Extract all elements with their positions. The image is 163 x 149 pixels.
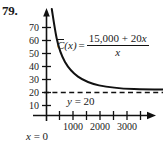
- y-tick-label-20: 20: [19, 88, 39, 98]
- asymptote-label-value: 20: [84, 95, 95, 107]
- horizontal-asymptote-label: y = 20: [67, 96, 95, 107]
- formula-numerator-var: x: [142, 32, 147, 44]
- y-tick-label-10: 10: [19, 101, 39, 111]
- origin-label-var: x: [26, 130, 31, 142]
- formula-equals: =: [79, 40, 85, 51]
- asymptote-label-equals: =: [75, 95, 81, 107]
- y-tick-label-40: 40: [19, 62, 39, 72]
- x-tick-label-3000: 3000: [113, 122, 141, 132]
- origin-label-equals: =: [34, 130, 40, 142]
- y-tick-label-60: 60: [19, 36, 39, 46]
- vertical-asymptote-label: x = 0: [26, 131, 48, 142]
- math-figure: 79.: [0, 0, 163, 149]
- x-tick-label-2000: 2000: [86, 122, 114, 132]
- formula-denominator: x: [113, 46, 122, 58]
- formula-fraction: 15,000 + 20x x: [87, 33, 149, 58]
- y-axis-arrow-icon: [43, 8, 50, 17]
- formula-numerator-text: 15,000 + 20: [89, 32, 142, 44]
- y-tick-label-70: 70: [19, 23, 39, 33]
- y-tick-label-50: 50: [19, 49, 39, 59]
- formula-lhs-arg: (x): [64, 39, 76, 51]
- function-formula: C(x) = 15,000 + 20x x: [57, 33, 149, 58]
- formula-numerator: 15,000 + 20x: [87, 33, 149, 45]
- origin-label-value: 0: [43, 130, 49, 142]
- formula-lhs: C(x): [57, 39, 77, 52]
- y-tick-label-30: 30: [19, 75, 39, 85]
- asymptote-label-var: y: [67, 95, 72, 107]
- x-axis-arrow-icon: [147, 112, 156, 119]
- x-tick-label-1000: 1000: [59, 122, 87, 132]
